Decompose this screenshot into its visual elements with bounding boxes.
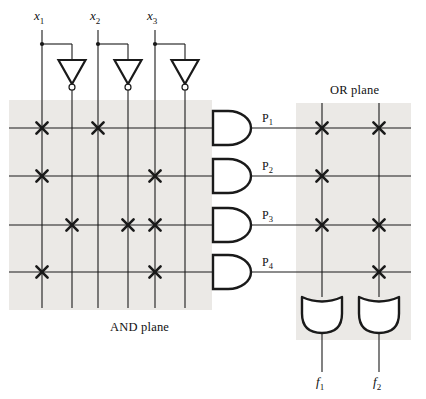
- and-gate-P4: [213, 255, 251, 289]
- inverter-icon-x1: [59, 60, 86, 84]
- product-label-sub: 3: [269, 214, 273, 224]
- product-label-sub: 4: [269, 261, 273, 271]
- and-gate-P3: [213, 208, 251, 242]
- and-plane-label: AND plane: [110, 320, 169, 335]
- inverter-icon-x3: [172, 60, 199, 84]
- product-term-label-P4: P4: [262, 255, 273, 271]
- product-label-text: P: [262, 159, 269, 173]
- output-label-sub: 1: [320, 382, 325, 392]
- product-label-sub: 1: [269, 117, 273, 127]
- or-gate-f1: [302, 297, 342, 333]
- product-label-text: P: [262, 255, 269, 269]
- product-label-text: P: [262, 111, 269, 125]
- input-label-x3: x3: [147, 8, 157, 26]
- product-term-label-P2: P2: [262, 159, 273, 175]
- and-gate-P1: [213, 111, 251, 145]
- output-label-sub: 2: [377, 382, 382, 392]
- inverter-bubble-x2: [125, 84, 131, 90]
- and-gate-P2: [213, 159, 251, 193]
- plane-shading: [9, 100, 411, 340]
- input-label-x1: x1: [34, 8, 44, 26]
- input-label-sub: 1: [40, 16, 45, 26]
- output-label-f1: f1: [316, 374, 324, 392]
- or-plane-label: OR plane: [330, 83, 379, 98]
- input-label-x2: x2: [90, 8, 100, 26]
- inverter-bubble-x3: [182, 84, 188, 90]
- product-label-text: P: [262, 208, 269, 222]
- product-label-sub: 2: [269, 165, 273, 175]
- output-label-f2: f2: [373, 374, 381, 392]
- product-term-label-P3: P3: [262, 208, 273, 224]
- product-term-label-P1: P1: [262, 111, 273, 127]
- input-label-sub: 3: [153, 16, 158, 26]
- or-gate-f2: [359, 297, 399, 333]
- input-label-sub: 2: [96, 16, 101, 26]
- inverter-icon-x2: [115, 60, 142, 84]
- pla-canvas: [0, 0, 426, 399]
- inverter-bubble-x1: [69, 84, 75, 90]
- pla-diagram: x1x2x3P1P2P3P4f1f2AND planeOR plane: [0, 0, 426, 399]
